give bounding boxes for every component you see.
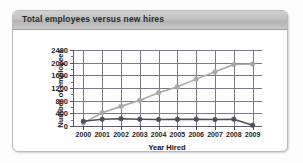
plot-area: 0400800120016002000240020002001200220032… xyxy=(73,50,262,127)
series-line xyxy=(83,64,252,123)
chart-title: Total employees versus new hires xyxy=(22,14,164,24)
series-marker xyxy=(119,116,124,121)
series-marker xyxy=(175,84,180,89)
x-axis-tick-label: 2008 xyxy=(226,131,242,138)
x-axis-tick xyxy=(234,126,235,130)
series-marker xyxy=(100,110,105,115)
x-axis-tick-label: 2002 xyxy=(113,131,129,138)
series-marker xyxy=(138,117,143,122)
x-axis-tick-label: 2000 xyxy=(76,131,92,138)
x-axis-tick-label: 2001 xyxy=(94,131,110,138)
y-axis-tick-label: 1600 xyxy=(51,71,68,80)
series-marker xyxy=(194,117,199,122)
series-layer xyxy=(74,50,262,126)
series-marker xyxy=(81,119,86,124)
series-marker xyxy=(213,70,218,75)
y-axis-tick-label: 800 xyxy=(55,96,68,105)
y-axis-tick xyxy=(70,126,74,127)
series-marker xyxy=(138,98,143,103)
x-axis-title: Year Hired xyxy=(73,143,261,152)
chart-plot-container: Number of employees 04008001200160020002… xyxy=(15,31,285,149)
x-axis-tick xyxy=(159,126,160,130)
y-axis-tick-label: 2000 xyxy=(51,58,68,67)
x-axis-tick xyxy=(177,126,178,130)
x-axis-tick xyxy=(102,126,103,130)
series-marker xyxy=(119,104,124,109)
x-axis-tick xyxy=(140,126,141,130)
x-axis-tick xyxy=(196,126,197,130)
x-axis-tick xyxy=(215,126,216,130)
series-line xyxy=(83,119,252,125)
screenshot-root: Total employees versus new hires Number … xyxy=(0,0,303,163)
x-axis-tick-label: 2003 xyxy=(132,131,148,138)
series-marker xyxy=(100,117,105,122)
series-marker xyxy=(156,90,161,95)
x-axis-tick-label: 2004 xyxy=(151,131,167,138)
series-marker xyxy=(194,77,199,82)
x-axis-tick-label: 2005 xyxy=(170,131,186,138)
y-axis-tick-label: 0 xyxy=(64,122,68,131)
chart-panel-titlebar: Total employees versus new hires xyxy=(13,11,287,30)
x-axis-tick xyxy=(83,126,84,130)
x-axis-tick xyxy=(121,126,122,130)
series-marker xyxy=(232,62,237,67)
y-axis-tick-label: 400 xyxy=(55,109,68,118)
series-marker xyxy=(250,123,255,128)
y-axis-tick-label: 2400 xyxy=(51,46,68,55)
series-marker xyxy=(156,117,161,122)
x-axis-tick-label: 2009 xyxy=(245,131,261,138)
series-marker xyxy=(213,117,218,122)
x-axis-tick-label: 2006 xyxy=(188,131,204,138)
y-axis-tick-label: 1200 xyxy=(51,84,68,93)
series-marker xyxy=(175,117,180,122)
chart-panel: Total employees versus new hires Number … xyxy=(12,10,288,152)
series-marker xyxy=(250,62,255,67)
x-axis-tick-label: 2007 xyxy=(207,131,223,138)
series-marker xyxy=(232,117,237,122)
